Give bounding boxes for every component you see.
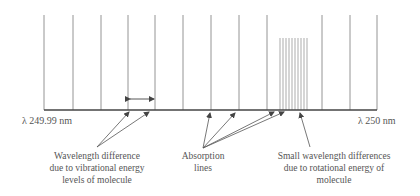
annotation-line: Wavelength difference <box>14 150 180 162</box>
absorption-spectrum-diagram: λ 249.99 nm λ 250 nm Wavelength differen… <box>0 0 420 196</box>
rotational-annotation: Small wavelength differences due to rota… <box>254 150 414 186</box>
annotation-line: molecule <box>254 174 414 186</box>
absorption-annotation: Absorption lines <box>168 150 238 174</box>
annotation-line: levels of molecule <box>14 174 180 186</box>
axis-start-label: λ 249.99 nm <box>22 115 72 127</box>
rotational-absorption-lines <box>280 38 307 110</box>
annotation-line: Absorption <box>168 150 238 162</box>
vibrational-annotation: Wavelength difference due to vibrational… <box>14 150 180 186</box>
axis-end-label: λ 250 nm <box>358 115 396 127</box>
annotation-line: due to rotational energy of <box>254 162 414 174</box>
vibrational-pointer-arrows <box>97 112 149 147</box>
rotational-pointer-arrow <box>300 113 310 147</box>
annotation-line: Small wavelength differences <box>254 150 414 162</box>
annotation-line: lines <box>168 162 238 174</box>
annotation-line: due to vibrational energy <box>14 162 180 174</box>
vibrational-absorption-lines <box>44 15 377 110</box>
absorption-pointer-arrows <box>203 112 284 148</box>
